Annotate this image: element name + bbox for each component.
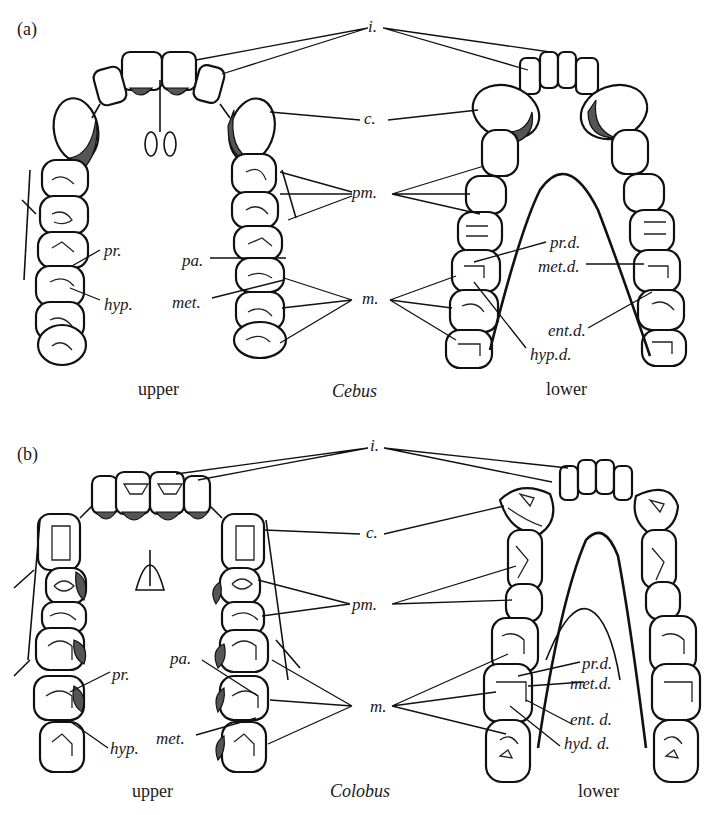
label-hypocone-a: hyp. (104, 296, 133, 313)
label-molars-b: m. (370, 698, 387, 715)
caption-lower-b: lower (578, 782, 619, 800)
label-hypoconid-b: hyd. d. (564, 735, 610, 752)
label-protoconid-a: pr.d. (550, 234, 580, 251)
label-canine-b: c. (366, 524, 378, 541)
label-entoconid-b: ent. d. (570, 711, 612, 728)
caption-upper-a: upper (138, 380, 179, 398)
cebus-upper-arcade (22, 52, 296, 365)
label-metaconid-b: met.d. (570, 675, 612, 692)
label-hypocone-b: hyp. (110, 740, 139, 757)
label-entoconid-a: ent.d. (548, 322, 586, 339)
label-molars-a: m. (362, 290, 379, 307)
label-canine-a: c. (364, 110, 376, 127)
panel-b-label: (b) (17, 445, 38, 463)
label-premolars-b: pm. (352, 596, 377, 613)
label-incisors-a: i. (368, 18, 377, 35)
label-metaconid-a: met.d. (538, 258, 580, 275)
label-hypoconid-a: hyp.d. (530, 346, 572, 363)
panel-a-label: (a) (17, 20, 37, 38)
label-paracone-a: pa. (182, 252, 203, 269)
label-protocone-b: pr. (112, 666, 129, 683)
label-paracone-b: pa. (170, 650, 191, 667)
caption-genus-b: Colobus (330, 782, 390, 800)
label-protocone-a: pr. (104, 242, 121, 259)
label-protoconid-b: pr.d. (582, 655, 612, 672)
label-metacone-a: met. (172, 294, 201, 311)
dental-arcade-figure: (a) (b) i. c. pm. m. pr. hyp. pa. met. p… (0, 0, 709, 815)
label-metacone-b: met. (156, 730, 185, 747)
caption-upper-b: upper (132, 782, 173, 800)
label-incisors-b: i. (370, 437, 379, 454)
label-premolars-a: pm. (352, 184, 377, 201)
colobus-upper-arcade (14, 472, 300, 772)
caption-genus-a: Cebus (332, 382, 377, 400)
caption-lower-a: lower (546, 380, 587, 398)
